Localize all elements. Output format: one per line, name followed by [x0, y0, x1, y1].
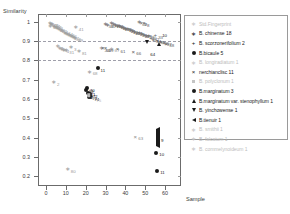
legend-item[interactable]: ∗B. longiradiatum 1	[188, 57, 285, 67]
legend-label: B.marginatum var. stenophyllum 1	[199, 98, 273, 104]
legend-item[interactable]: ∗B. falcatum 1	[188, 134, 285, 144]
legend-label: B. chinense 18	[199, 30, 231, 36]
triangle-left-icon	[156, 127, 160, 148]
data-point: ∗	[105, 22, 110, 28]
data-point: ∗	[76, 48, 81, 54]
y-tick-label: 0.6	[4, 96, 30, 102]
legend-marker: +	[188, 38, 199, 47]
triangle-up-icon	[157, 25, 161, 46]
data-point: ∗	[72, 35, 77, 41]
x-tick-label: 10	[56, 190, 76, 196]
data-point	[154, 151, 158, 155]
legend-item[interactable]: ∗Std.Fingerprint	[188, 19, 285, 29]
legend-label: B.tienuir 1	[199, 117, 221, 123]
triangle-down-icon	[192, 108, 196, 112]
asterisk-icon: ∗	[191, 126, 196, 133]
data-points-layer: ∗43∗45∗44∗46∗47∗48∗49∗52∗51∗53∗54∗55∗56∗…	[38, 14, 181, 186]
legend-item[interactable]: B.marginatum var. stenophyllum 1	[188, 96, 285, 106]
data-point-label: 63	[138, 136, 143, 141]
filled-circle-icon	[192, 89, 196, 93]
data-point-label: 9	[161, 137, 163, 142]
x-tick-label: 50	[135, 190, 155, 196]
legend-marker	[188, 115, 199, 124]
data-point	[87, 93, 91, 97]
scatter-plot-figure: Similarity Sample 10.90.80.70.60.50.40.3…	[0, 0, 290, 214]
data-point: ∗	[65, 166, 70, 172]
data-point-label: 11	[101, 67, 106, 72]
filled-circle-icon	[155, 169, 159, 173]
data-point-label: 10	[162, 33, 167, 38]
data-point-label: 11	[160, 170, 165, 175]
data-point-label: 42	[142, 21, 147, 26]
data-point	[157, 26, 161, 42]
data-point	[156, 130, 160, 146]
data-point-label: 2	[57, 81, 59, 86]
data-point-label: 80	[71, 168, 76, 173]
legend-marker	[188, 106, 199, 115]
legend-label: B. scorzonerifolium 2	[199, 40, 245, 46]
legend-marker: ∗	[188, 29, 199, 38]
data-point: ×	[134, 134, 138, 140]
x-icon: ×	[132, 49, 136, 55]
legend-label: B. polyclonum 1	[199, 78, 234, 84]
asterisk-icon: ∗	[137, 19, 142, 25]
legend-label: Std.Fingerprint	[199, 21, 231, 27]
y-tick-label: 0.8	[4, 57, 30, 63]
data-point: ×	[132, 49, 136, 55]
legend-label: nerchianclisc 11	[199, 69, 234, 75]
data-point: ×	[165, 41, 169, 47]
data-point: ∗	[87, 69, 92, 75]
legend-marker: ∗	[188, 19, 199, 28]
legend-label: B. commelynoideum 1	[199, 146, 248, 152]
data-point-label: 38	[169, 43, 174, 48]
x-tick-label: 40	[115, 190, 135, 196]
legend-label: B. smithii 1	[199, 126, 223, 132]
legend-marker	[188, 48, 199, 57]
asterisk-icon: ∗	[191, 145, 196, 152]
y-axis-title: Similarity	[3, 8, 27, 14]
x-icon: ×	[116, 46, 120, 52]
legend-marker: ∗	[188, 125, 199, 134]
data-point: ×	[101, 45, 105, 51]
filled-circle-icon	[84, 88, 88, 92]
asterisk-icon: ∗	[191, 30, 196, 37]
data-point-label: 41	[79, 26, 84, 31]
filled-circle-icon	[96, 66, 100, 70]
legend-item[interactable]: ∗B. commelynoideum 1	[188, 144, 285, 154]
data-point-label: 61	[120, 48, 125, 53]
asterisk-icon: ∗	[73, 24, 78, 30]
x-tick-label: 0	[36, 190, 56, 196]
asterisk-icon: ∗	[87, 69, 92, 75]
legend-item[interactable]: ∗B. chinense 18	[188, 29, 285, 39]
x-tick-label: 30	[96, 190, 116, 196]
asterisk-icon: ∗	[191, 135, 196, 142]
data-point-label: 60	[106, 47, 111, 52]
y-tick-label: 0.5	[4, 115, 30, 121]
data-point: ×	[116, 46, 120, 52]
triangle-left-icon	[192, 118, 196, 122]
legend-item[interactable]: B. yinchowense 1	[188, 105, 285, 115]
asterisk-icon: ∗	[72, 35, 77, 41]
legend-item[interactable]: ×nerchianclisc 11	[188, 67, 285, 77]
data-point-label: 40	[111, 24, 116, 29]
legend-marker	[188, 86, 199, 95]
asterisk-icon: ∗	[68, 44, 73, 50]
asterisk-icon: ∗	[51, 79, 56, 85]
legend-marker: ×	[188, 67, 199, 76]
triangle-up-icon	[192, 99, 196, 103]
legend-item[interactable]: +B. scorzonerifolium 2	[188, 38, 285, 48]
data-point-label: 69	[89, 89, 94, 94]
data-point-label: 81	[82, 50, 87, 55]
x-icon: ×	[134, 134, 138, 140]
legend-marker: ∗	[188, 134, 199, 143]
plus-icon: +	[192, 40, 196, 46]
legend-item[interactable]: ∗B. smithii 1	[188, 125, 285, 135]
legend-label: B. longiradiatum 1	[199, 59, 238, 65]
legend-item[interactable]: B.tienuir 1	[188, 115, 285, 125]
legend-item[interactable]: B.bicaule 5	[188, 48, 285, 58]
data-point	[96, 66, 100, 70]
legend-item[interactable]: B. polyclonum 1	[188, 77, 285, 87]
triangle-down-icon	[145, 40, 149, 61]
legend-item[interactable]: B.marginatum 3	[188, 86, 285, 96]
asterisk-icon: ∗	[191, 59, 196, 66]
